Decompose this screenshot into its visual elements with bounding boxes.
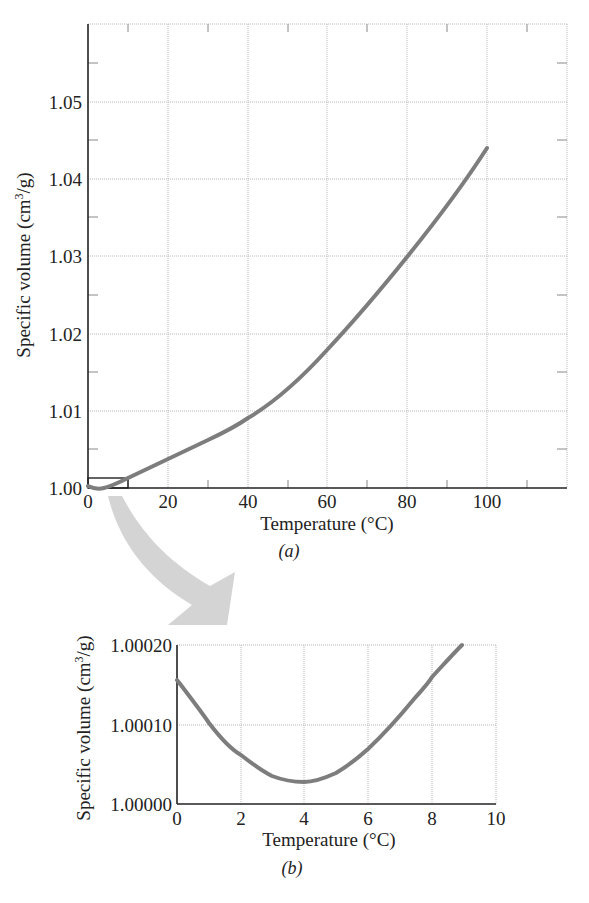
x-tick-label: 10 <box>487 808 506 829</box>
x-tick-label: 2 <box>236 808 246 829</box>
x-tick-label: 80 <box>398 491 417 512</box>
panel-b-curve <box>177 645 462 782</box>
zoom-arrow <box>108 496 235 625</box>
panel-a-y-tick-labels: 1.00 1.01 1.02 1.03 1.04 1.05 <box>49 92 83 499</box>
panel-a: 0 20 40 60 80 100 1.00 1.01 1.02 1.03 1.… <box>12 24 567 562</box>
panel-a-caption: (a) <box>279 541 300 562</box>
x-tick-label: 6 <box>363 808 373 829</box>
figure: 0 20 40 60 80 100 1.00 1.01 1.02 1.03 1.… <box>0 0 589 903</box>
panel-b-y-axis-title: Specific volume (cm3/g) <box>72 635 95 820</box>
x-tick-label: 20 <box>159 491 178 512</box>
x-tick-label: 8 <box>427 808 437 829</box>
y-tick-label: 1.00 <box>49 478 82 499</box>
panel-a-x-tick-labels: 0 20 40 60 80 100 <box>83 491 501 512</box>
y-tick-label: 1.04 <box>49 169 83 190</box>
y-tick-label: 1.03 <box>49 246 82 267</box>
panel-b-caption: (b) <box>282 858 303 879</box>
x-tick-label: 40 <box>239 491 258 512</box>
x-tick-label: 100 <box>473 491 502 512</box>
panel-a-y-axis-title: Specific volume (cm3/g) <box>12 172 35 357</box>
panel-b-grid <box>177 645 496 804</box>
y-tick-label: 1.00010 <box>110 715 172 736</box>
x-tick-label: 0 <box>172 808 182 829</box>
y-tick-label: 1.00020 <box>110 635 172 656</box>
panel-a-curve <box>88 148 487 489</box>
panel-b: 0 2 4 6 8 10 1.00000 1.00010 1.00020 Spe… <box>72 635 506 879</box>
y-tick-label: 1.02 <box>49 324 82 345</box>
y-tick-label: 1.05 <box>49 92 82 113</box>
panel-a-x-axis-title: Temperature (°C) <box>260 513 393 535</box>
y-tick-label: 1.00000 <box>110 794 172 815</box>
panel-a-grid <box>88 24 567 488</box>
y-tick-label: 1.01 <box>49 401 82 422</box>
panel-b-y-tick-labels: 1.00000 1.00010 1.00020 <box>110 635 172 815</box>
panel-b-x-tick-labels: 0 2 4 6 8 10 <box>172 808 505 829</box>
x-tick-label: 0 <box>83 491 93 512</box>
panel-b-x-axis-title: Temperature (°C) <box>262 829 395 851</box>
x-tick-label: 60 <box>318 491 337 512</box>
x-tick-label: 4 <box>299 808 309 829</box>
